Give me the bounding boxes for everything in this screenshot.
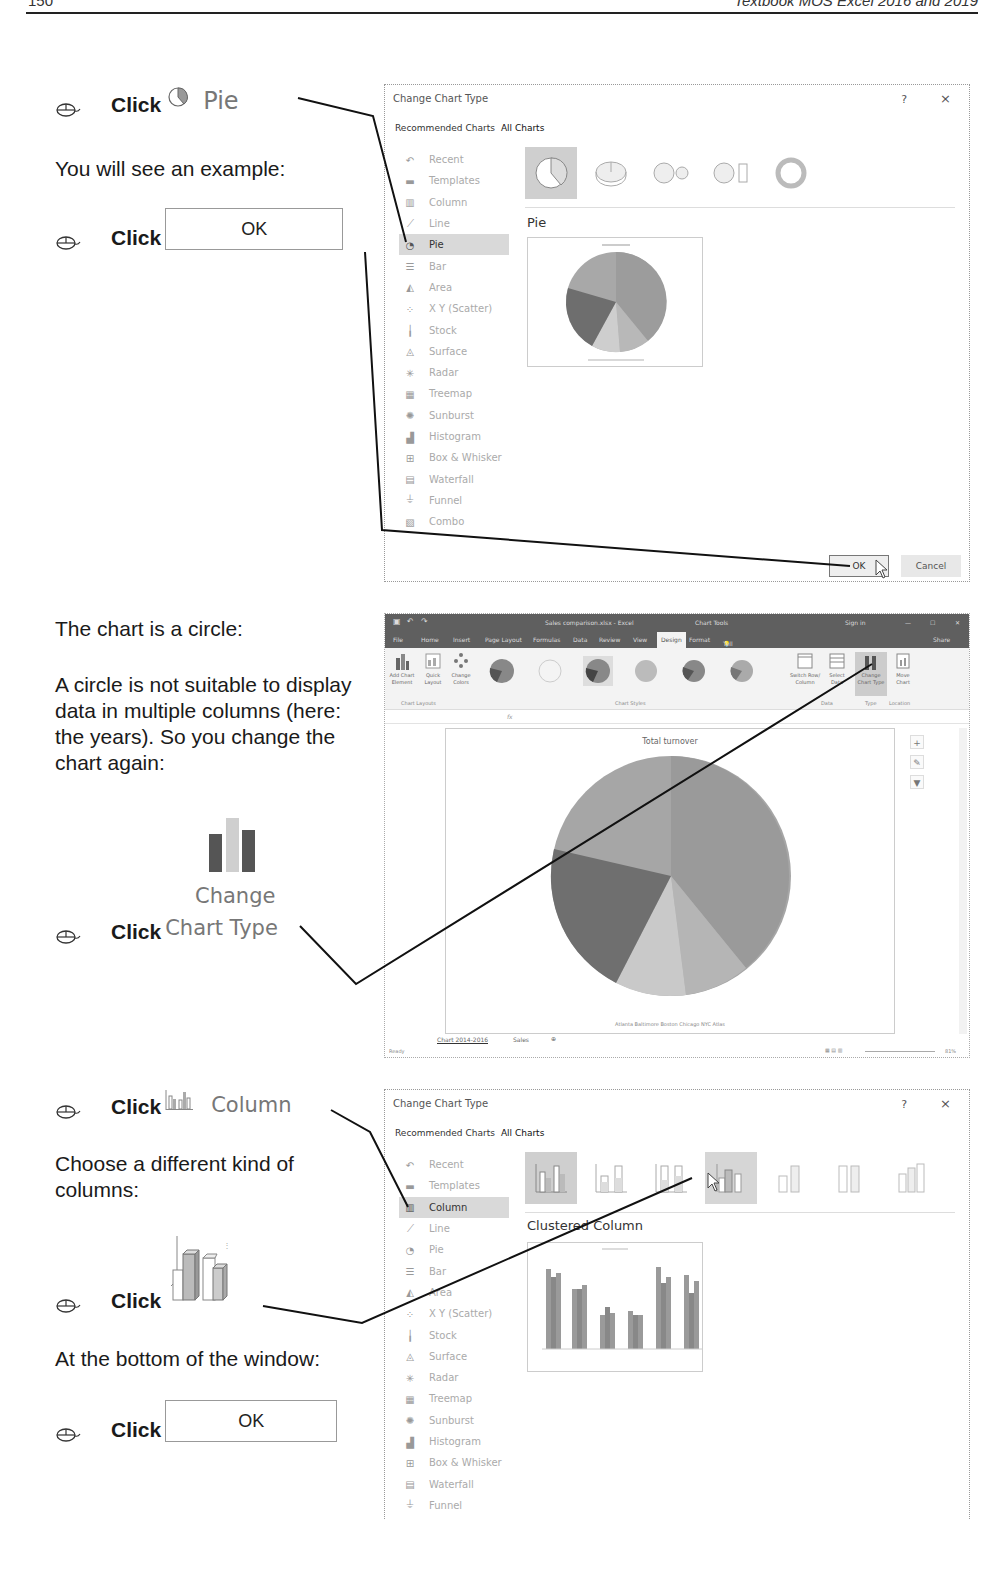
help-button[interactable]: ?	[901, 93, 907, 106]
chart-type-radar[interactable]: ✳Radar	[399, 1367, 509, 1388]
tab-recommended-charts[interactable]: Recommended Charts	[395, 1128, 495, 1138]
chart-type-bar[interactable]: ☰Bar	[399, 255, 509, 276]
subtype-3d-column[interactable]	[885, 1152, 937, 1204]
chart-type-histogram[interactable]: ▟Histogram	[399, 426, 509, 447]
tab-file[interactable]: File	[393, 636, 403, 643]
chart-styles-button[interactable]: ✎	[910, 755, 924, 769]
move-chart-button[interactable]: Move Chart	[891, 652, 915, 686]
chart-type-recent[interactable]: ↶Recent	[399, 1154, 509, 1175]
tab-format[interactable]: Format	[689, 636, 710, 643]
help-button[interactable]: ?	[901, 1098, 907, 1111]
chart-style-6[interactable]	[727, 656, 757, 686]
chart-type-pie[interactable]: ◔Pie	[399, 1239, 509, 1260]
chart-filters-button[interactable]: ▼	[910, 775, 924, 789]
tab-home[interactable]: Home	[421, 636, 439, 643]
zoom-slider[interactable]	[865, 1051, 935, 1052]
add-sheet-button[interactable]: ⊕	[551, 1035, 556, 1042]
sign-in[interactable]: Sign in	[845, 619, 865, 626]
maximize-icon[interactable]: ☐	[930, 619, 935, 626]
chart-type-stock[interactable]: ╽Stock	[399, 319, 509, 340]
quick-layout-button[interactable]: Quick Layout	[421, 652, 445, 686]
tab-design[interactable]: Design	[657, 632, 686, 648]
tab-recommended-charts[interactable]: Recommended Charts	[395, 123, 495, 133]
subtype-bar-of-pie[interactable]	[705, 147, 757, 199]
chart-style-2[interactable]	[535, 656, 565, 686]
chart-style-4[interactable]	[631, 656, 661, 686]
zoom-level: 81%	[945, 1048, 956, 1054]
chart-elements-button[interactable]: +	[910, 735, 924, 749]
chart-type-line[interactable]: ⟋Line	[399, 1218, 509, 1239]
chart-type-treemap[interactable]: ▦Treemap	[399, 1388, 509, 1409]
chart-legend[interactable]: Atlanta Baltimore Boston Chicago NYC Atl…	[446, 1021, 894, 1027]
tab-data[interactable]: Data	[573, 636, 587, 643]
view-buttons[interactable]: ▦ ▤ ▥	[825, 1047, 842, 1053]
chart-type-xy-scatter[interactable]: ⁘X Y (Scatter)	[399, 298, 509, 319]
minimize-icon[interactable]: —	[905, 619, 911, 626]
close-button[interactable]: ×	[940, 1096, 951, 1111]
close-button[interactable]: ×	[940, 91, 951, 106]
sheet-tab-chart[interactable]: Chart 2014-2016	[437, 1036, 488, 1044]
share-button[interactable]: Share	[933, 636, 950, 643]
chart-type-funnel[interactable]: ⏚Funnel	[399, 1495, 509, 1516]
chart-style-5[interactable]	[679, 656, 709, 686]
chart-style-3-selected[interactable]	[583, 656, 613, 686]
chart-type-funnel[interactable]: ⏚Funnel	[399, 490, 509, 511]
tab-page-layout[interactable]: Page Layout	[485, 636, 522, 643]
subtype-100-stacked-column[interactable]	[645, 1152, 697, 1204]
subtype-3d-pie[interactable]	[585, 147, 637, 199]
switch-row-column-button[interactable]: Switch Row/ Column	[789, 652, 821, 686]
chart-type-sunburst[interactable]: ✺Sunburst	[399, 405, 509, 426]
tab-review[interactable]: Review	[599, 636, 620, 643]
chart-type-templates[interactable]: ▬Templates	[399, 170, 509, 191]
chart-type-radar[interactable]: ✳Radar	[399, 362, 509, 383]
chart-type-stock[interactable]: ╽Stock	[399, 1324, 509, 1345]
tab-view[interactable]: View	[633, 636, 647, 643]
formula-bar[interactable]: fx	[385, 710, 969, 724]
tab-formulas[interactable]: Formulas	[533, 636, 560, 643]
vertical-scrollbar[interactable]	[959, 728, 967, 1034]
change-colors-button[interactable]: Change Colors	[449, 652, 473, 686]
chart-type-waterfall[interactable]: ▤Waterfall	[399, 1473, 509, 1494]
chart-area[interactable]: Total turnover Atlanta Baltimore Boston …	[445, 728, 895, 1034]
chart-type-surface[interactable]: ◬Surface	[399, 1346, 509, 1367]
subtype-3d-stacked-column[interactable]	[765, 1152, 817, 1204]
chart-type-treemap[interactable]: ▦Treemap	[399, 383, 509, 404]
chart-type-pie[interactable]: ◔Pie	[399, 234, 509, 255]
chart-type-xy-scatter[interactable]: ⁘X Y (Scatter)	[399, 1303, 509, 1324]
chart-type-column[interactable]: ▥Column	[399, 1197, 509, 1218]
subtype-pie-of-pie[interactable]	[645, 147, 697, 199]
redo-icon[interactable]: ↷	[421, 617, 428, 626]
subtype-3d-100-stacked-column[interactable]	[825, 1152, 877, 1204]
chart-type-waterfall[interactable]: ▤Waterfall	[399, 468, 509, 489]
change-chart-type-button[interactable]: Change Chart Type	[855, 652, 887, 696]
chart-style-1[interactable]	[487, 656, 517, 686]
chart-type-box-whisker[interactable]: ⊞Box & Whisker	[399, 1452, 509, 1473]
chart-type-surface[interactable]: ◬Surface	[399, 341, 509, 362]
chart-type-sunburst[interactable]: ✺Sunburst	[399, 1410, 509, 1431]
chart-type-combo[interactable]: ▧Combo	[399, 511, 509, 532]
chart-type-column[interactable]: ▥Column	[399, 192, 509, 213]
chart-type-templates[interactable]: ▬Templates	[399, 1175, 509, 1196]
add-chart-element-button[interactable]: Add Chart Element	[389, 652, 415, 686]
tab-all-charts[interactable]: All Charts	[501, 1128, 544, 1138]
sheet-tab-sales[interactable]: Sales	[513, 1036, 529, 1043]
chart-type-histogram[interactable]: ▟Histogram	[399, 1431, 509, 1452]
chart-type-bar[interactable]: ☰Bar	[399, 1260, 509, 1281]
save-icon[interactable]: ▣	[393, 617, 401, 626]
chart-type-line[interactable]: ⟋Line	[399, 213, 509, 234]
chart-type-area[interactable]: ◭Area	[399, 277, 509, 298]
cancel-button[interactable]: Cancel	[901, 555, 961, 577]
select-data-button[interactable]: Select Data	[825, 652, 849, 686]
subtype-stacked-column[interactable]	[585, 1152, 637, 1204]
subtype-doughnut[interactable]	[765, 147, 817, 199]
chart-type-area[interactable]: ◭Area	[399, 1282, 509, 1303]
chart-type-box-whisker[interactable]: ⊞Box & Whisker	[399, 447, 509, 468]
chart-type-recent[interactable]: ↶Recent	[399, 149, 509, 170]
chart-title[interactable]: Total turnover	[446, 737, 894, 746]
close-icon[interactable]: ✕	[955, 619, 960, 626]
tab-insert[interactable]: Insert	[453, 636, 470, 643]
subtype-clustered-column[interactable]	[525, 1152, 577, 1204]
tab-all-charts[interactable]: All Charts	[501, 123, 544, 133]
subtype-pie[interactable]	[525, 147, 577, 199]
undo-icon[interactable]: ↶	[407, 617, 414, 626]
